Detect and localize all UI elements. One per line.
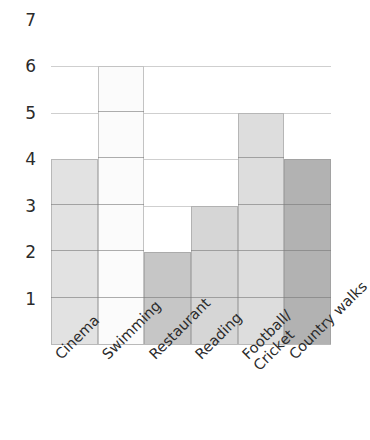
bar-segment-divider [238, 250, 285, 251]
bar-segment-divider [98, 250, 145, 251]
x-axis: CinemaSwimmingRestaurantReadingFootball/… [0, 345, 336, 440]
y-axis-tick-label: 4 [10, 151, 36, 168]
bar-segment-divider [98, 297, 145, 298]
bar-segment-divider [238, 204, 285, 205]
y-axis-tick-label: 1 [10, 290, 36, 307]
bar-segment-divider [98, 157, 145, 158]
bar-segment-divider [284, 297, 331, 298]
bar-segment-divider [51, 297, 98, 298]
bar-segment-divider [191, 250, 238, 251]
y-axis-tick-label: 6 [10, 58, 36, 75]
y-axis-tick-label: 5 [10, 104, 36, 121]
bar-segment-divider [98, 204, 145, 205]
gridline [51, 66, 331, 67]
gridline [51, 113, 331, 114]
bar [238, 113, 285, 345]
y-axis-tick-label: 3 [10, 197, 36, 214]
plot-area [51, 20, 331, 345]
bar-segment-divider [98, 111, 145, 112]
bar-segment-divider [238, 297, 285, 298]
bar-segment-divider [51, 250, 98, 251]
bar [98, 66, 145, 345]
bar-segment-divider [284, 204, 331, 205]
bar-segment-divider [284, 250, 331, 251]
y-axis-tick-label: 2 [10, 244, 36, 261]
y-axis-tick-label: 7 [10, 12, 36, 29]
bar-segment-divider [51, 204, 98, 205]
bar-segment-divider [238, 157, 285, 158]
